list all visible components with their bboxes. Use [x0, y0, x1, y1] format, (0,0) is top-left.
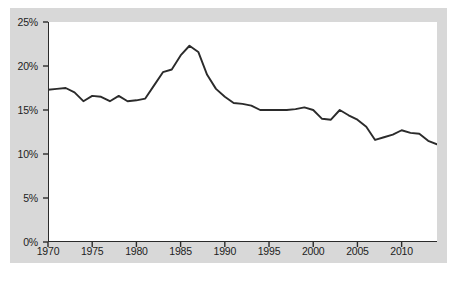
x-tick-label: 2010	[379, 246, 425, 257]
x-tick-label: 2005	[334, 246, 380, 257]
figure-root: 0%5%10%15%20%25% 19701975198019851990199…	[0, 0, 456, 281]
x-tick-label: 1990	[202, 246, 248, 257]
x-tick-label: 1980	[113, 246, 159, 257]
x-axis-labels: 197019751980198519901995200020052010	[0, 0, 456, 281]
x-tick-label: 1985	[158, 246, 204, 257]
x-tick-label: 1970	[25, 246, 71, 257]
x-tick-label: 1975	[69, 246, 115, 257]
x-tick-label: 2000	[290, 246, 336, 257]
x-tick-label: 1995	[246, 246, 292, 257]
